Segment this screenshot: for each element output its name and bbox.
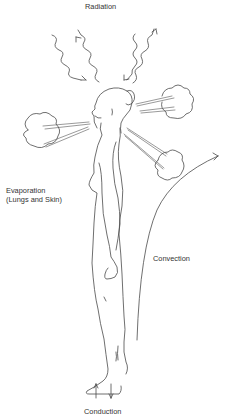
conduction-arrows bbox=[94, 384, 113, 398]
vapor-stream-upper-right bbox=[136, 96, 175, 113]
conduction-arrow-up bbox=[94, 384, 98, 398]
ear bbox=[112, 109, 113, 115]
heat-exchange-diagram: Radiation Evaporation (Lungs and Skin) C… bbox=[0, 0, 227, 418]
radiation-label: Radiation bbox=[85, 2, 116, 11]
radiation-arrows bbox=[52, 29, 157, 83]
knee-detail bbox=[104, 297, 106, 301]
convection-arrow bbox=[137, 153, 218, 340]
convection-arrowhead bbox=[213, 153, 218, 160]
hair-bun bbox=[126, 90, 135, 105]
leg-inner bbox=[116, 346, 118, 361]
vapor-cloud-upper-right bbox=[162, 85, 194, 119]
evaporation-label: Evaporation (Lungs and Skin) bbox=[6, 186, 62, 204]
evaporation-clouds bbox=[23, 85, 193, 180]
conduction-label: Conduction bbox=[84, 407, 121, 416]
evaporation-label-line2: (Lungs and Skin) bbox=[6, 195, 62, 204]
radiation-arrow-out-right bbox=[133, 29, 154, 83]
body-back-outline bbox=[118, 128, 127, 374]
vapor-stream-lower-right bbox=[124, 128, 167, 169]
convection-curve bbox=[137, 156, 218, 340]
vapor-cloud-lower-right bbox=[155, 150, 184, 180]
conduction-arrow-down bbox=[109, 384, 113, 398]
radiation-arrow-in-left bbox=[52, 35, 81, 80]
arm-outline bbox=[99, 163, 118, 279]
human-figure bbox=[86, 88, 134, 394]
evaporation-label-line1: Evaporation bbox=[6, 186, 62, 195]
vapor-cloud-left bbox=[23, 112, 59, 147]
face-detail bbox=[95, 116, 101, 118]
convection-label: Convection bbox=[153, 254, 190, 263]
vapor-stream-left bbox=[43, 122, 90, 147]
